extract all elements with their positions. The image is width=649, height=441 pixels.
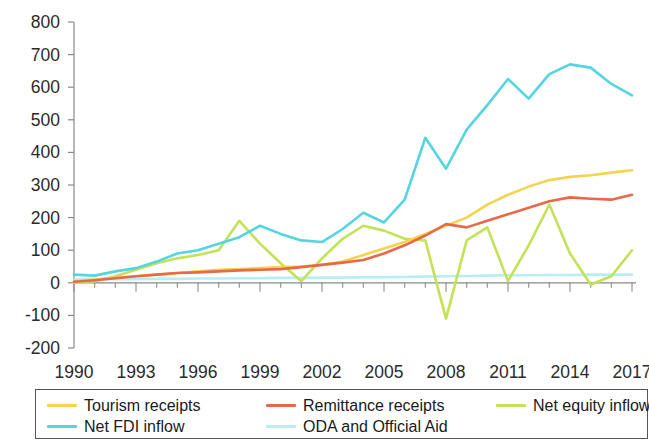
legend-row-2: Net FDI inflow ODA and Official Aid: [36, 416, 647, 437]
x-tick-label: 1990: [55, 362, 94, 382]
legend-label-net-equity-inflow: Net equity inflow: [533, 395, 649, 416]
series-line-tourism-receipts: [74, 170, 632, 281]
y-tick-label: 600: [31, 77, 60, 97]
chart-page: 8007006005004003002001000-100-2001990199…: [0, 0, 649, 441]
x-tick-label: 2005: [365, 362, 404, 382]
x-tick-label: 1996: [179, 362, 218, 382]
legend-label-oda-and-official-aid: ODA and Official Aid: [303, 416, 448, 437]
x-tick-label: 2002: [303, 362, 342, 382]
y-tick-label: 500: [31, 110, 60, 130]
y-tick-label: 400: [31, 142, 60, 162]
y-tick-label: -200: [25, 338, 60, 358]
x-tick-label: 1999: [241, 362, 280, 382]
legend-label-remittance-receipts: Remittance receipts: [303, 395, 444, 416]
legend-item-net-equity-inflow[interactable]: Net equity inflow: [496, 395, 646, 416]
x-tick-label: 2017: [613, 362, 649, 382]
x-tick-label: 1993: [117, 362, 156, 382]
x-tick-label: 2008: [427, 362, 466, 382]
x-tick-label: 2011: [489, 362, 527, 382]
x-tick-label: 2014: [551, 362, 590, 382]
y-tick-label: 200: [31, 208, 60, 228]
legend-item-oda-and-official-aid[interactable]: ODA and Official Aid: [266, 416, 496, 437]
legend-item-tourism-receipts[interactable]: Tourism receipts: [47, 395, 266, 416]
legend-item-remittance-receipts[interactable]: Remittance receipts: [266, 395, 496, 416]
legend-item-net-fdi-inflow[interactable]: Net FDI inflow: [47, 416, 266, 437]
legend-swatch-tourism-receipts: [47, 404, 77, 407]
chart-legend: Tourism receipts Remittance receipts Net…: [35, 389, 648, 439]
y-tick-label: 300: [31, 175, 60, 195]
y-tick-label: 0: [50, 273, 60, 293]
legend-swatch-remittance-receipts: [266, 404, 296, 407]
legend-swatch-oda-and-official-aid: [266, 425, 296, 428]
y-tick-label: 800: [31, 12, 60, 32]
legend-row-1: Tourism receipts Remittance receipts Net…: [36, 395, 647, 416]
legend-swatch-net-equity-inflow: [496, 404, 526, 407]
y-tick-label: 700: [31, 45, 60, 65]
legend-label-tourism-receipts: Tourism receipts: [84, 395, 200, 416]
series-line-net-fdi-inflow: [74, 64, 632, 275]
y-tick-label: 100: [31, 240, 60, 260]
chart-svg: 8007006005004003002001000-100-2001990199…: [0, 0, 649, 386]
legend-swatch-net-fdi-inflow: [47, 425, 77, 428]
line-chart: 8007006005004003002001000-100-2001990199…: [0, 0, 649, 386]
y-tick-label: -100: [25, 305, 60, 325]
legend-label-net-fdi-inflow: Net FDI inflow: [84, 416, 184, 437]
